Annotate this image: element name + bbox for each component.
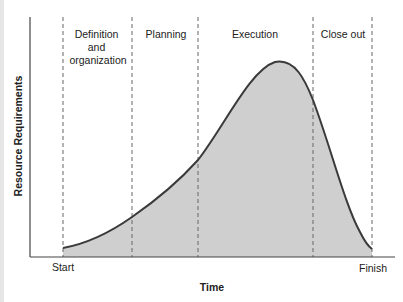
phase-label-definition: Definition and organization [69,28,126,66]
phase-label-closeout: Close out [321,28,365,40]
phase-label-execution: Execution [232,28,278,40]
x-tick-finish: Finish [359,262,387,274]
phase-label-planning: Planning [146,28,187,40]
resource-curve-chart: Definition and organization Planning Exe… [0,0,403,302]
x-tick-start: Start [52,261,74,273]
y-axis-title: Resource Requirements [12,75,24,196]
resource-area [63,62,372,257]
x-axis-title: Time [200,281,224,293]
